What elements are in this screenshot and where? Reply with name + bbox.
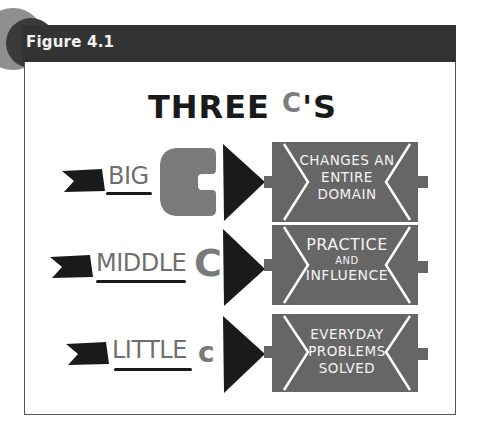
ribbon-flag-icon bbox=[50, 255, 94, 279]
banner-line: SOLVED bbox=[292, 360, 402, 377]
triangle-arrow-icon bbox=[222, 229, 266, 307]
banner-line: AND bbox=[292, 255, 402, 267]
row-label: LITTLE bbox=[112, 336, 187, 364]
row-big-c: BIG CHANGES AN ENTIRE DOMAIN bbox=[0, 140, 477, 230]
banner-line: PRACTICE bbox=[292, 235, 402, 255]
banner-text: CHANGES AN ENTIRE DOMAIN bbox=[292, 152, 402, 203]
label-underline bbox=[106, 192, 152, 195]
banner-text: EVERYDAY PROBLEMS SOLVED bbox=[292, 326, 402, 377]
banner-line: CHANGES AN bbox=[292, 152, 402, 169]
label-underline bbox=[114, 368, 192, 371]
ribbon-flag-icon bbox=[66, 342, 110, 366]
banner-line: ENTIRE bbox=[292, 169, 402, 186]
title-word: THREE bbox=[148, 88, 270, 126]
row-little-c: LITTLE c EVERYDAY PROBLEMS SOLVED bbox=[0, 312, 477, 402]
banner-line: EVERYDAY bbox=[292, 326, 402, 343]
title-c: C bbox=[282, 88, 302, 118]
triangle-arrow-icon bbox=[222, 144, 266, 222]
middle-c-glyph: C bbox=[194, 241, 222, 285]
row-label: BIG bbox=[108, 162, 149, 190]
label-underline bbox=[96, 280, 186, 283]
banner-text: PRACTICE AND INFLUENCE bbox=[292, 235, 402, 284]
ribbon-flag-icon bbox=[62, 169, 106, 193]
triangle-arrow-icon bbox=[222, 316, 266, 394]
banner-line: PROBLEMS bbox=[292, 343, 402, 360]
banner-line: INFLUENCE bbox=[292, 267, 402, 284]
figure-label: Figure 4.1 bbox=[26, 33, 114, 51]
diagram-title: THREE C'S bbox=[148, 88, 337, 126]
title-suffix: 'S bbox=[302, 88, 337, 126]
row-middle-c: MIDDLE C PRACTICE AND INFLUENCE bbox=[0, 225, 477, 315]
little-c-glyph: c bbox=[198, 336, 215, 369]
big-c-glyph bbox=[158, 148, 218, 216]
row-label: MIDDLE bbox=[96, 249, 186, 277]
banner-line: DOMAIN bbox=[292, 186, 402, 203]
